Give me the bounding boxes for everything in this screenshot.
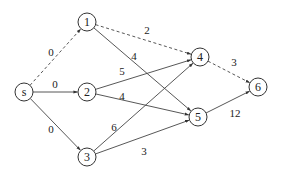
edge-arrow-icon bbox=[30, 29, 81, 85]
edge-arrow-icon bbox=[94, 63, 193, 151]
edge-s-to-1 bbox=[30, 29, 81, 85]
weights-layer: 000245463312 bbox=[48, 24, 240, 157]
edge-s-to-3 bbox=[30, 98, 80, 150]
node-5: 5 bbox=[189, 108, 207, 126]
edge-weight-label: 0 bbox=[52, 78, 58, 90]
edge-weight-label: 4 bbox=[131, 50, 137, 62]
node-6: 6 bbox=[249, 78, 267, 96]
edge-arrow-icon bbox=[208, 61, 250, 83]
edge-arrow-icon bbox=[206, 91, 249, 113]
node-label: 5 bbox=[195, 110, 201, 124]
edge-weight-label: 12 bbox=[230, 107, 241, 119]
edge-arrow-icon bbox=[96, 60, 191, 90]
node-3: 3 bbox=[78, 148, 96, 166]
node-label: s bbox=[22, 85, 27, 99]
edge-arrow-icon bbox=[94, 28, 191, 111]
edge-4-to-6 bbox=[208, 61, 250, 83]
edge-1-to-4 bbox=[96, 25, 191, 55]
edge-3-to-4 bbox=[94, 63, 193, 151]
edge-2-to-4 bbox=[96, 60, 191, 90]
node-label: 2 bbox=[84, 85, 90, 99]
edge-5-to-6 bbox=[206, 91, 249, 113]
edge-weight-label: 4 bbox=[119, 90, 125, 102]
edge-weight-label: 6 bbox=[111, 121, 117, 133]
edge-weight-label: 0 bbox=[48, 123, 54, 135]
edge-weight-label: 0 bbox=[48, 46, 54, 58]
edge-arrow-icon bbox=[96, 25, 191, 55]
node-2: 2 bbox=[78, 83, 96, 101]
node-label: 1 bbox=[84, 15, 90, 29]
network-graph: 000245463312 s123456 bbox=[0, 0, 286, 173]
node-label: 3 bbox=[84, 150, 90, 164]
edge-weight-label: 2 bbox=[144, 24, 150, 36]
node-4: 4 bbox=[191, 48, 209, 66]
node-label: 4 bbox=[197, 50, 203, 64]
edges-layer bbox=[30, 25, 250, 154]
node-label: 6 bbox=[255, 80, 261, 94]
edge-1-to-5 bbox=[94, 28, 191, 111]
edge-arrow-icon bbox=[30, 98, 80, 150]
node-s: s bbox=[15, 83, 33, 101]
node-1: 1 bbox=[78, 13, 96, 31]
edge-weight-label: 5 bbox=[119, 65, 125, 77]
edge-weight-label: 3 bbox=[231, 56, 237, 68]
edge-weight-label: 3 bbox=[141, 145, 147, 157]
